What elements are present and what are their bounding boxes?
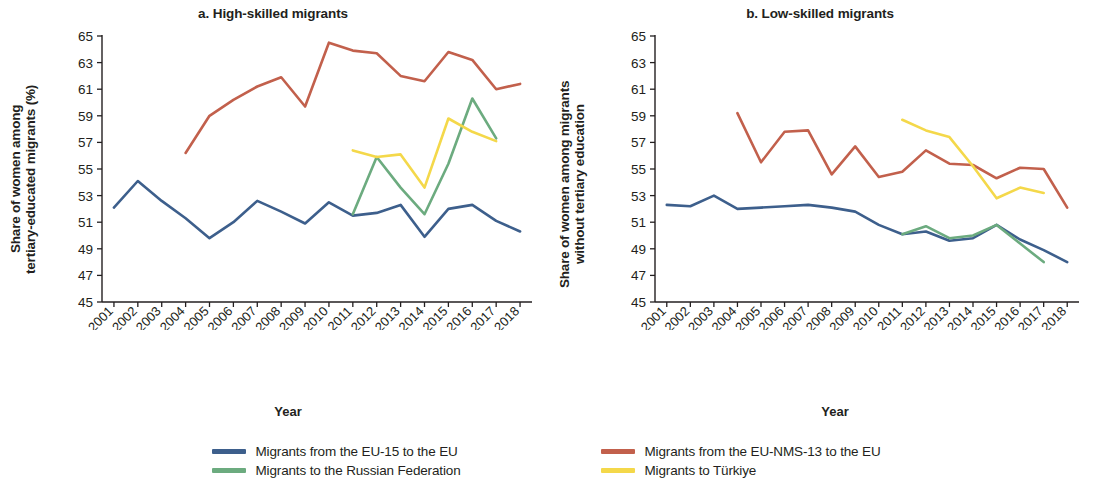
- y-tick-label: 61: [631, 82, 646, 97]
- y-tick-label: 45: [78, 295, 93, 310]
- legend-swatch-icon: [212, 449, 246, 454]
- y-tick-label: 57: [78, 135, 93, 150]
- y-tick-label: 45: [631, 295, 646, 310]
- y-tick-label: 61: [78, 82, 93, 97]
- panel-a-svg: 4547495153555759616365200120022003200420…: [60, 30, 536, 330]
- y-tick-label: 51: [78, 215, 93, 230]
- y-tick-label: 47: [78, 268, 93, 283]
- y-tick-label: 65: [78, 30, 93, 44]
- y-tick-label: 53: [78, 189, 93, 204]
- legend-swatch-icon: [601, 468, 635, 473]
- y-tick-label: 59: [78, 109, 93, 124]
- legend-item[interactable]: Migrants to Türkiye: [601, 463, 880, 478]
- legend-swatch-icon: [212, 468, 246, 473]
- figure-root: a. High-skilled migrants Share of women …: [0, 0, 1093, 492]
- series-line-0: [114, 181, 520, 238]
- y-tick-label: 59: [631, 109, 646, 124]
- panel-a-plot-area: 4547495153555759616365200120022003200420…: [60, 30, 536, 330]
- y-tick-label: 63: [631, 56, 646, 71]
- y-tick-label: 57: [631, 135, 646, 150]
- panel-b-ylabel: Share of women among migrants without te…: [557, 34, 587, 334]
- legend-swatch-icon: [601, 449, 635, 454]
- x-tick-label: 2018: [491, 304, 522, 330]
- legend-label: Migrants to the Russian Federation: [255, 463, 460, 478]
- panel-a-xlabel: Year: [0, 404, 546, 419]
- y-tick-label: 55: [631, 162, 646, 177]
- series-line-3: [353, 119, 496, 188]
- chart-legend: Migrants from the EU-15 to the EUMigrant…: [0, 444, 1093, 492]
- y-tick-label: 55: [78, 162, 93, 177]
- panel-b-plot-area: 4547495153555759616365200120022003200420…: [613, 30, 1083, 330]
- series-line-1: [737, 113, 1067, 208]
- y-tick-label: 63: [78, 56, 93, 71]
- panel-a-ylabel: Share of women among tertiary-educated m…: [8, 34, 38, 324]
- panel-b-xlabel: Year: [547, 404, 1093, 419]
- legend-label: Migrants from the EU-NMS-13 to the EU: [644, 444, 880, 459]
- y-tick-label: 49: [78, 242, 93, 257]
- y-tick-label: 47: [631, 268, 646, 283]
- panel-b-svg: 4547495153555759616365200120022003200420…: [613, 30, 1083, 330]
- legend-item[interactable]: Migrants from the EU-NMS-13 to the EU: [601, 444, 880, 459]
- panel-a-title: a. High-skilled migrants: [0, 6, 546, 21]
- legend-label: Migrants from the EU-15 to the EU: [255, 444, 457, 459]
- y-tick-label: 49: [631, 242, 646, 257]
- legend-label: Migrants to Türkiye: [644, 463, 756, 478]
- panel-low-skilled: b. Low-skilled migrants Share of women a…: [547, 0, 1093, 440]
- y-tick-label: 53: [631, 189, 646, 204]
- y-tick-label: 51: [631, 215, 646, 230]
- legend-item[interactable]: Migrants to the Russian Federation: [212, 463, 587, 478]
- y-tick-label: 65: [631, 30, 646, 44]
- legend-item[interactable]: Migrants from the EU-15 to the EU: [212, 444, 587, 459]
- panel-high-skilled: a. High-skilled migrants Share of women …: [0, 0, 546, 440]
- series-line-0: [667, 196, 1067, 263]
- series-line-3: [902, 120, 1043, 199]
- panel-b-title: b. Low-skilled migrants: [547, 6, 1093, 21]
- series-line-1: [186, 43, 520, 153]
